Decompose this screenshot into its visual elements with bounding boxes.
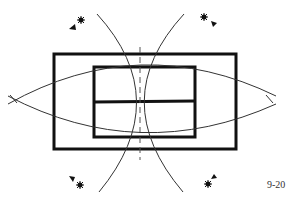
marker-top-left — [69, 16, 85, 30]
right-vertical-arc — [144, 14, 184, 192]
star-icon — [200, 13, 208, 21]
figure-label: 9-20 — [267, 179, 285, 190]
arrow-icon — [69, 176, 75, 182]
construction-diagram — [0, 0, 299, 205]
star-icon — [76, 181, 84, 189]
star-icon — [204, 180, 212, 188]
arrow-icon — [211, 174, 217, 179]
right-end-tick — [266, 95, 273, 103]
arrow-icon — [69, 24, 76, 30]
marker-top-right — [200, 13, 217, 27]
star-icon — [77, 16, 85, 24]
arrow-icon — [211, 21, 217, 27]
marker-bottom-right — [204, 174, 217, 188]
marker-bottom-left — [69, 176, 84, 189]
